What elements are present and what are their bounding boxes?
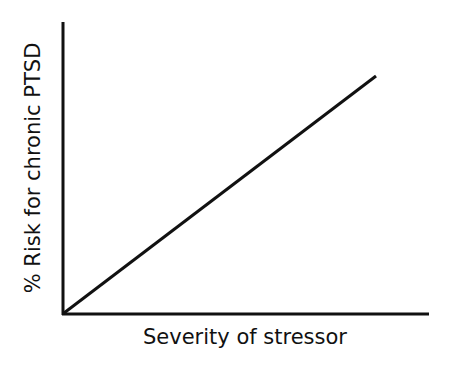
y-axis-label: % Risk for chronic PTSD — [21, 43, 45, 294]
chart-plot — [0, 0, 451, 373]
data-line — [64, 76, 376, 313]
x-axis-label: Severity of stressor — [143, 325, 347, 349]
